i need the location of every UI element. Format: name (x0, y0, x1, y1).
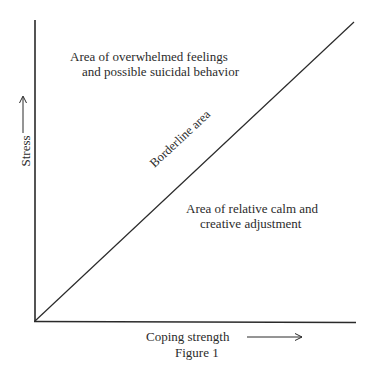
x-axis-label: Coping strength (146, 329, 229, 344)
x-axis (34, 322, 356, 323)
y-arrow-icon (20, 96, 27, 133)
upper-region-label-line1: Area of overwhelmed feelings (70, 49, 228, 64)
stress-coping-diagram: Area of overwhelmed feelings and possibl… (0, 0, 372, 373)
x-arrow-icon (247, 334, 302, 341)
upper-region-label-line2: and possible suicidal behavior (82, 64, 239, 79)
figure-caption: Figure 1 (175, 345, 219, 360)
y-axis-label: Stress (18, 135, 33, 166)
lower-region-label-line1: Area of relative calm and (186, 201, 318, 216)
lower-region-label-line2: creative adjustment (200, 216, 301, 231)
